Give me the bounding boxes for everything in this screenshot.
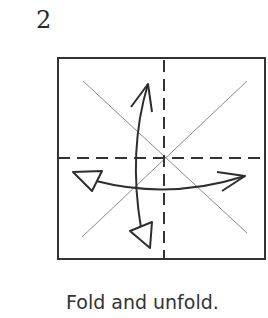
down-push-triangle-icon — [130, 222, 152, 248]
fold-arrow-vertical — [130, 84, 152, 248]
left-push-triangle-icon — [73, 171, 102, 191]
fold-diagram — [0, 0, 268, 280]
vertical-arrow-shaft — [136, 84, 148, 228]
right-arrowhead-icon — [217, 172, 245, 191]
step-caption: Fold and unfold. — [0, 290, 268, 314]
fold-arrow-horizontal — [73, 171, 245, 191]
horizontal-arrow-shaft — [96, 176, 245, 189]
